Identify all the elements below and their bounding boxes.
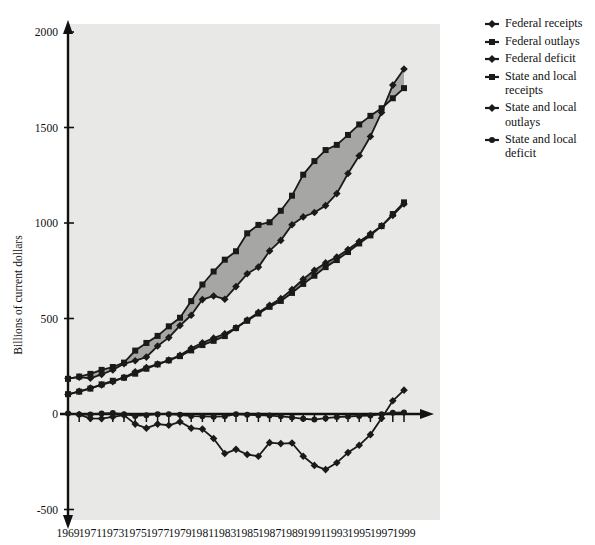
data-point-marker — [401, 85, 407, 91]
data-point-marker — [188, 413, 194, 419]
x-axis-tick-label: 1971 — [79, 527, 102, 540]
data-point-marker — [278, 413, 284, 419]
y-axis-tick-label: 1500 — [35, 122, 58, 135]
data-point-marker — [199, 282, 205, 288]
data-point-marker — [323, 147, 329, 153]
data-point-marker — [188, 298, 194, 304]
data-point-marker — [222, 413, 228, 419]
y-axis-tick-label: 1000 — [35, 217, 58, 230]
x-axis-tick-label: 1969 — [56, 527, 79, 540]
data-point-marker — [132, 413, 138, 419]
x-axis-tick-label: 1989 — [280, 527, 303, 540]
data-point-marker — [278, 208, 284, 214]
data-point-marker — [143, 412, 149, 418]
data-point-marker — [379, 105, 385, 111]
diamond-line-marker-icon — [484, 17, 500, 31]
y-axis-title: Billions of current dollars — [12, 235, 25, 355]
data-point-marker — [401, 409, 407, 415]
x-axis-tick-label: 1975 — [124, 527, 147, 540]
legend-label: Federal outlays — [505, 34, 580, 49]
legend-label: State and local deficit — [505, 132, 577, 161]
chart-page: -500050010001500200019691971197319751977… — [0, 0, 595, 545]
y-axis: -5000500100015002000 — [35, 20, 74, 529]
data-point-marker — [356, 413, 362, 419]
data-point-marker — [311, 417, 317, 423]
legend-label: Federal receipts — [505, 16, 583, 31]
legend-label: State and local outlays — [505, 100, 577, 129]
legend-item-state-and-local-deficit[interactable]: State and local deficit — [484, 132, 592, 161]
data-point-marker — [367, 113, 373, 119]
diamond-line-marker-icon — [484, 101, 500, 115]
x-axis-tick-label: 1997 — [370, 527, 393, 540]
x-axis-tick-label: 1995 — [348, 527, 371, 540]
x-axis-tick-label: 1987 — [258, 527, 281, 540]
x-axis-tick-label: 1985 — [236, 527, 259, 540]
data-point-marker — [166, 323, 172, 329]
data-point-marker — [390, 410, 396, 416]
data-point-marker — [211, 269, 217, 275]
data-point-marker — [345, 413, 351, 419]
data-point-marker — [367, 413, 373, 419]
data-point-marker — [155, 411, 161, 417]
legend-label: Federal deficit — [505, 51, 576, 66]
x-axis-tick-label: 1991 — [303, 527, 326, 540]
data-point-marker — [166, 411, 172, 417]
data-point-marker — [199, 413, 205, 419]
data-point-marker — [76, 374, 82, 380]
data-point-marker — [110, 364, 116, 370]
square-line-marker-icon — [484, 70, 500, 84]
circle-line-marker-icon — [484, 133, 500, 147]
data-point-marker — [155, 333, 161, 339]
legend-item-federal-deficit[interactable]: Federal deficit — [484, 51, 592, 66]
x-axis-tick-label: 1983 — [213, 527, 236, 540]
data-point-marker — [356, 121, 362, 127]
data-point-marker — [255, 222, 261, 228]
legend-item-state-and-local-outlays[interactable]: State and local outlays — [484, 100, 592, 129]
x-axis-tick-label: 1981 — [191, 527, 214, 540]
legend-item-state-and-local-receipts[interactable]: State and local receipts — [484, 69, 592, 98]
data-point-marker — [143, 340, 149, 346]
data-point-marker — [334, 142, 340, 148]
x-axis-tick-label: 1977 — [146, 527, 169, 540]
data-point-marker — [177, 315, 183, 321]
diamond-line-marker-icon — [484, 52, 500, 66]
data-point-marker — [289, 193, 295, 199]
data-point-marker — [267, 413, 273, 419]
x-axis-tick-label: 1999 — [392, 527, 415, 540]
data-point-marker — [345, 132, 351, 138]
y-axis-tick-label: -500 — [37, 504, 58, 517]
data-point-marker — [99, 410, 105, 416]
y-axis-tick-label: 2000 — [35, 26, 58, 39]
legend-item-federal-receipts[interactable]: Federal receipts — [484, 16, 592, 31]
data-point-marker — [233, 248, 239, 254]
data-point-marker — [233, 411, 239, 417]
y-axis-tick-label: 0 — [52, 408, 58, 421]
data-point-marker — [289, 414, 295, 420]
data-point-marker — [87, 371, 93, 377]
data-point-marker — [65, 411, 71, 417]
data-point-marker — [334, 414, 340, 420]
data-point-marker — [244, 230, 250, 236]
x-axis-tick-label: 1993 — [325, 527, 348, 540]
data-point-marker — [76, 411, 82, 417]
plot-background — [68, 24, 440, 520]
legend-item-federal-outlays[interactable]: Federal outlays — [484, 34, 592, 49]
data-point-marker — [323, 415, 329, 421]
y-axis-tick-label: 500 — [41, 313, 59, 326]
data-point-marker — [222, 257, 228, 263]
data-point-marker — [177, 412, 183, 418]
legend-label: State and local receipts — [505, 69, 577, 98]
square-line-marker-icon — [484, 35, 500, 49]
data-point-marker — [65, 376, 71, 382]
data-point-marker — [121, 360, 127, 366]
data-point-marker — [267, 219, 273, 225]
chart-svg: -500050010001500200019691971197319751977… — [0, 0, 440, 545]
data-point-marker — [379, 411, 385, 417]
data-point-marker — [255, 412, 261, 418]
plot-area: -500050010001500200019691971197319751977… — [0, 0, 440, 545]
data-point-marker — [244, 412, 250, 418]
data-point-marker — [110, 410, 116, 416]
x-axis-tick-label: 1973 — [101, 527, 124, 540]
data-point-marker — [211, 414, 217, 420]
data-point-marker — [87, 412, 93, 418]
